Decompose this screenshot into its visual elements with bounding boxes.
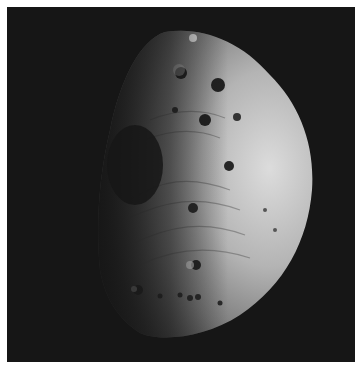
- asteroid-photo: [7, 7, 355, 362]
- asteroid-body: [90, 20, 320, 350]
- photo-frame: [7, 7, 355, 362]
